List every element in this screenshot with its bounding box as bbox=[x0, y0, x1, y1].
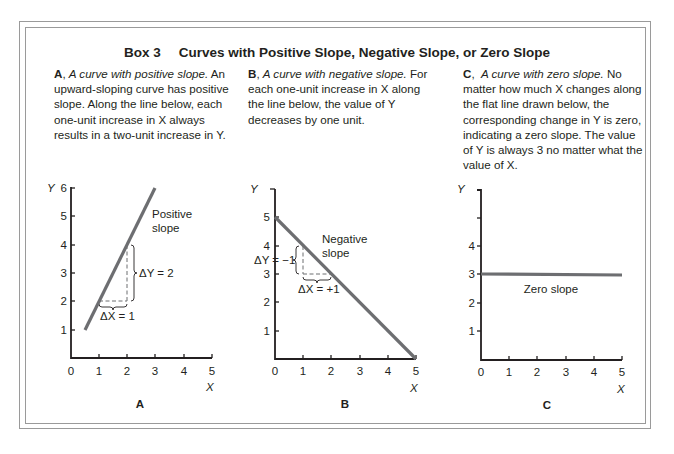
svg-text:6: 6 bbox=[61, 182, 67, 194]
chart-b-y-tick-labels: 5 4 3 2 1 bbox=[264, 211, 271, 337]
svg-text:5: 5 bbox=[619, 366, 625, 378]
chart-b-curve-label-1: Negative bbox=[322, 233, 367, 245]
svg-text:1: 1 bbox=[506, 366, 512, 378]
chart-c-x-tick-labels: 0 1 2 3 4 5 bbox=[478, 366, 625, 378]
chart-b-ticks bbox=[270, 189, 416, 359]
svg-text:4: 4 bbox=[385, 365, 392, 377]
svg-text:2: 2 bbox=[469, 297, 475, 309]
chart-b-axes bbox=[275, 189, 416, 359]
chart-a-dy-label: ΔY = 2 bbox=[139, 267, 174, 279]
svg-text:5: 5 bbox=[61, 210, 67, 222]
chart-b-x-axis-label: X bbox=[409, 382, 419, 394]
chart-c: 4 3 2 1 0 1 2 3 4 5 Y X Zero slope C bbox=[457, 183, 626, 411]
chart-a-curve-label-2: slope bbox=[152, 222, 180, 234]
svg-text:2: 2 bbox=[264, 296, 270, 308]
svg-text:3: 3 bbox=[357, 365, 363, 377]
svg-text:3: 3 bbox=[264, 268, 270, 280]
svg-text:4: 4 bbox=[264, 240, 271, 252]
chart-a-x-axis-label: X bbox=[205, 381, 215, 393]
chart-a: 6 5 4 3 2 1 0 1 2 3 4 5 Y X Positive slo… bbox=[47, 182, 215, 410]
svg-text:3: 3 bbox=[563, 366, 569, 378]
chart-c-curve-label: Zero slope bbox=[524, 283, 578, 295]
svg-text:5: 5 bbox=[209, 365, 215, 377]
chart-b-dy-label: ΔY = −1 bbox=[254, 254, 295, 266]
svg-text:1: 1 bbox=[61, 324, 67, 336]
svg-text:3: 3 bbox=[469, 268, 475, 280]
svg-text:2: 2 bbox=[61, 295, 67, 307]
chart-b-curve-label-2: slope bbox=[322, 247, 350, 259]
svg-text:2: 2 bbox=[534, 366, 540, 378]
svg-text:4: 4 bbox=[181, 365, 188, 377]
chart-c-x-axis-label: X bbox=[616, 383, 626, 395]
svg-text:4: 4 bbox=[61, 239, 68, 251]
svg-text:5: 5 bbox=[264, 211, 270, 223]
chart-b-y-axis-label: Y bbox=[250, 183, 259, 195]
charts-canvas: 6 5 4 3 2 1 0 1 2 3 4 5 Y X Positive slo… bbox=[0, 0, 674, 454]
svg-text:1: 1 bbox=[300, 365, 306, 377]
chart-a-dy-brace bbox=[131, 245, 137, 301]
chart-a-caption: A bbox=[136, 398, 144, 410]
svg-text:0: 0 bbox=[478, 366, 484, 378]
svg-text:4: 4 bbox=[591, 366, 598, 378]
chart-a-x-tick-labels: 0 1 2 3 4 5 bbox=[68, 365, 215, 377]
chart-b-caption: B bbox=[341, 398, 349, 410]
svg-text:5: 5 bbox=[413, 365, 419, 377]
chart-a-positive-line bbox=[85, 188, 155, 330]
svg-text:2: 2 bbox=[124, 365, 130, 377]
chart-b: 5 4 3 2 1 0 1 2 3 4 5 Y X Negative slope… bbox=[250, 183, 419, 410]
svg-text:1: 1 bbox=[469, 325, 475, 337]
chart-a-y-tick-labels: 6 5 4 3 2 1 bbox=[61, 182, 68, 336]
svg-text:3: 3 bbox=[61, 267, 67, 279]
chart-b-dx-label: ΔX = +1 bbox=[298, 283, 340, 295]
svg-text:2: 2 bbox=[328, 365, 334, 377]
chart-c-caption: C bbox=[543, 399, 551, 411]
chart-c-zero-line bbox=[481, 274, 622, 275]
svg-text:3: 3 bbox=[152, 365, 158, 377]
chart-c-y-tick-labels: 4 3 2 1 bbox=[469, 240, 476, 337]
svg-text:0: 0 bbox=[272, 365, 278, 377]
svg-text:0: 0 bbox=[68, 365, 74, 377]
svg-text:4: 4 bbox=[469, 240, 476, 252]
chart-a-y-axis-label: Y bbox=[47, 182, 56, 194]
svg-text:1: 1 bbox=[264, 325, 270, 337]
chart-a-dx-label: ΔX = 1 bbox=[100, 310, 135, 322]
chart-c-y-axis-label: Y bbox=[457, 183, 466, 195]
chart-b-x-tick-labels: 0 1 2 3 4 5 bbox=[272, 365, 419, 377]
svg-text:1: 1 bbox=[96, 365, 102, 377]
chart-a-curve-label-1: Positive bbox=[152, 208, 192, 220]
